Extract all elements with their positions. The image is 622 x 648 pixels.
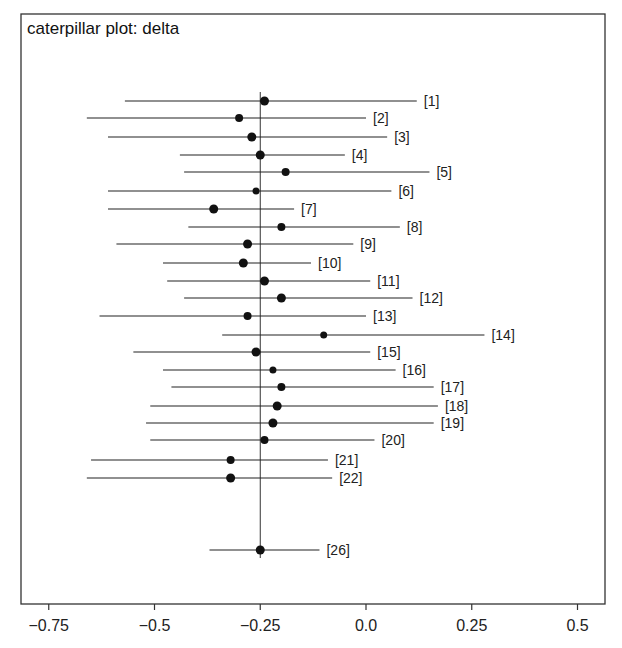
interval-row: [10] bbox=[163, 255, 341, 271]
x-tick-label: 0.0 bbox=[355, 617, 377, 634]
interval-label: [18] bbox=[445, 398, 468, 414]
x-tick-label: 0.5 bbox=[566, 617, 588, 634]
interval-label: [22] bbox=[339, 470, 362, 486]
interval-label: [11] bbox=[377, 273, 399, 289]
interval-label: [12] bbox=[420, 290, 443, 306]
interval-label: [2] bbox=[373, 110, 389, 126]
chart-title: caterpillar plot: delta bbox=[27, 19, 180, 38]
mean-dot bbox=[227, 456, 235, 464]
mean-dot bbox=[277, 294, 286, 303]
mean-dot bbox=[235, 114, 243, 122]
interval-row: [18] bbox=[150, 398, 468, 414]
interval-row: [5] bbox=[184, 164, 452, 180]
interval-row: [8] bbox=[188, 219, 422, 235]
mean-dot bbox=[243, 240, 252, 249]
interval-row: [19] bbox=[146, 415, 464, 431]
interval-label: [20] bbox=[381, 432, 404, 448]
mean-dot bbox=[277, 383, 285, 391]
mean-dot bbox=[269, 367, 276, 374]
mean-dot bbox=[239, 259, 248, 268]
interval-row: [4] bbox=[180, 147, 368, 163]
mean-dot bbox=[253, 188, 260, 195]
x-tick-label: −0.25 bbox=[240, 617, 281, 634]
interval-label: [3] bbox=[394, 129, 410, 145]
caterpillar-chart: caterpillar plot: delta [1][2][3][4][5][… bbox=[0, 0, 622, 648]
interval-label: [17] bbox=[441, 379, 464, 395]
mean-dot bbox=[256, 546, 265, 555]
mean-dot bbox=[320, 332, 327, 339]
interval-row: [22] bbox=[87, 470, 363, 486]
interval-row: [1] bbox=[125, 93, 439, 109]
interval-label: [21] bbox=[335, 452, 358, 468]
x-tick-label: −0.75 bbox=[29, 617, 70, 634]
mean-dot bbox=[247, 133, 256, 142]
interval-row: [12] bbox=[184, 290, 443, 306]
mean-dot bbox=[277, 223, 285, 231]
interval-label: [7] bbox=[301, 201, 317, 217]
mean-dot bbox=[226, 474, 235, 483]
interval-row: [3] bbox=[108, 129, 410, 145]
interval-row: [14] bbox=[222, 327, 515, 343]
interval-label: [16] bbox=[403, 362, 426, 378]
mean-dot bbox=[209, 205, 218, 214]
mean-dot bbox=[268, 419, 277, 428]
interval-row: [7] bbox=[108, 201, 317, 217]
interval-label: [4] bbox=[352, 147, 368, 163]
interval-label: [14] bbox=[491, 327, 514, 343]
interval-rows: [1][2][3][4][5][6][7][8][9][10][11][12][… bbox=[87, 93, 515, 558]
interval-row: [21] bbox=[91, 452, 358, 468]
interval-row: [17] bbox=[171, 379, 464, 395]
interval-label: [19] bbox=[441, 415, 464, 431]
mean-dot bbox=[260, 277, 269, 286]
interval-row: [6] bbox=[108, 183, 414, 199]
mean-dot bbox=[244, 312, 252, 320]
x-tick-label: −0.5 bbox=[139, 617, 171, 634]
interval-row: [13] bbox=[100, 308, 397, 324]
interval-row: [16] bbox=[163, 362, 426, 378]
interval-row: [20] bbox=[150, 432, 405, 448]
interval-row: [2] bbox=[87, 110, 389, 126]
mean-dot bbox=[260, 97, 269, 106]
interval-label: [13] bbox=[373, 308, 396, 324]
mean-dot bbox=[256, 151, 265, 160]
interval-label: [9] bbox=[360, 236, 376, 252]
interval-label: [1] bbox=[424, 93, 440, 109]
interval-label: [6] bbox=[398, 183, 414, 199]
interval-row: [26] bbox=[209, 542, 349, 558]
interval-label: [26] bbox=[326, 542, 349, 558]
interval-row: [15] bbox=[133, 344, 400, 360]
mean-dot bbox=[273, 402, 282, 411]
mean-dot bbox=[282, 168, 290, 176]
mean-dot bbox=[260, 436, 268, 444]
interval-label: [10] bbox=[318, 255, 341, 271]
plot-frame bbox=[21, 14, 605, 604]
interval-label: [15] bbox=[377, 344, 400, 360]
interval-row: [9] bbox=[116, 236, 375, 252]
interval-row: [11] bbox=[167, 273, 399, 289]
mean-dot bbox=[252, 348, 261, 357]
interval-label: [8] bbox=[407, 219, 423, 235]
x-axis: −0.75−0.5−0.250.00.250.5 bbox=[29, 604, 589, 634]
interval-label: [5] bbox=[436, 164, 452, 180]
x-tick-label: 0.25 bbox=[456, 617, 487, 634]
